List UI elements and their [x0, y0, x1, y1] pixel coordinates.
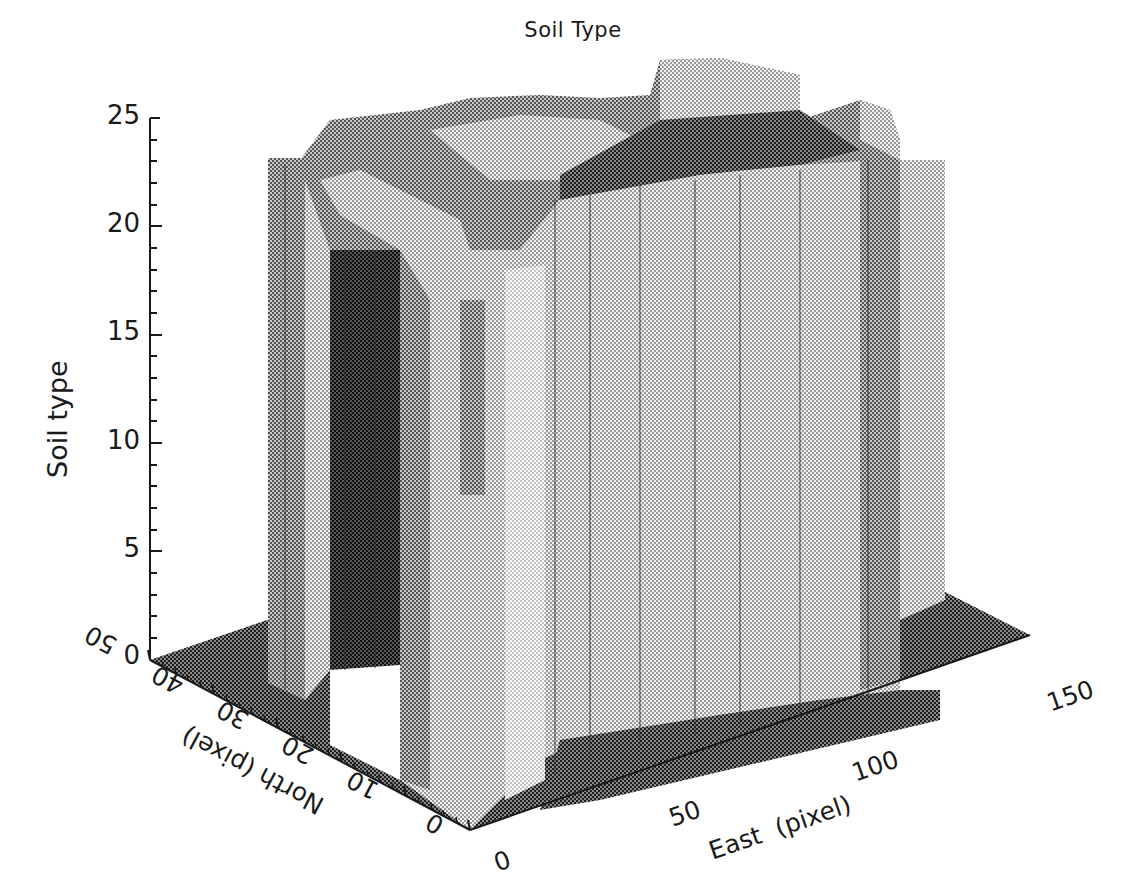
- surface-hanging-strip: [460, 300, 485, 495]
- surface-right-tower: [860, 140, 900, 690]
- surface-left-column: [268, 158, 305, 700]
- surface-front-pillar: [400, 250, 430, 790]
- chart-title: Soil Type: [0, 18, 1146, 42]
- surface-dark-recess: [330, 250, 400, 670]
- z-tick-label: 5: [80, 533, 140, 563]
- surface-right-tower-side: [900, 160, 945, 620]
- z-axis-label: Soil type: [42, 360, 73, 478]
- z-tick-label: 25: [80, 100, 140, 130]
- z-tick-label: 10: [80, 425, 140, 455]
- z-tick-label: 20: [80, 208, 140, 238]
- z-tick-label: 15: [80, 316, 140, 346]
- surface-front-highlight: [505, 265, 545, 800]
- z-axis: [150, 118, 162, 660]
- surface-plot: [0, 0, 1146, 895]
